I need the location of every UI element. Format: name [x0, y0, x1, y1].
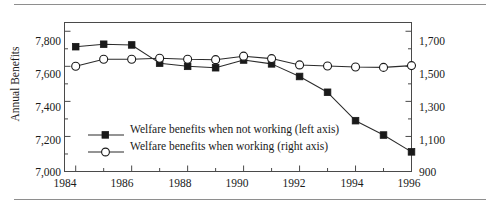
legend-label: Welfare benefits when not working (left …	[130, 123, 339, 135]
legend-swatch-filled-square	[88, 129, 124, 141]
chart-canvas	[0, 0, 500, 214]
left-axis-ticks	[65, 31, 71, 171]
x-axis-ticks	[76, 166, 412, 172]
legend-label: Welfare benefits when working (right axi…	[130, 140, 328, 152]
legend-item-working: Welfare benefits when working (right axi…	[88, 146, 124, 160]
legend-swatch-open-circle	[88, 146, 124, 158]
legend-item-not-working: Welfare benefits when not working (left …	[88, 129, 124, 143]
chart-figure: Annual Benefits 7,800 7,600 7,400 7,200 …	[0, 0, 500, 214]
